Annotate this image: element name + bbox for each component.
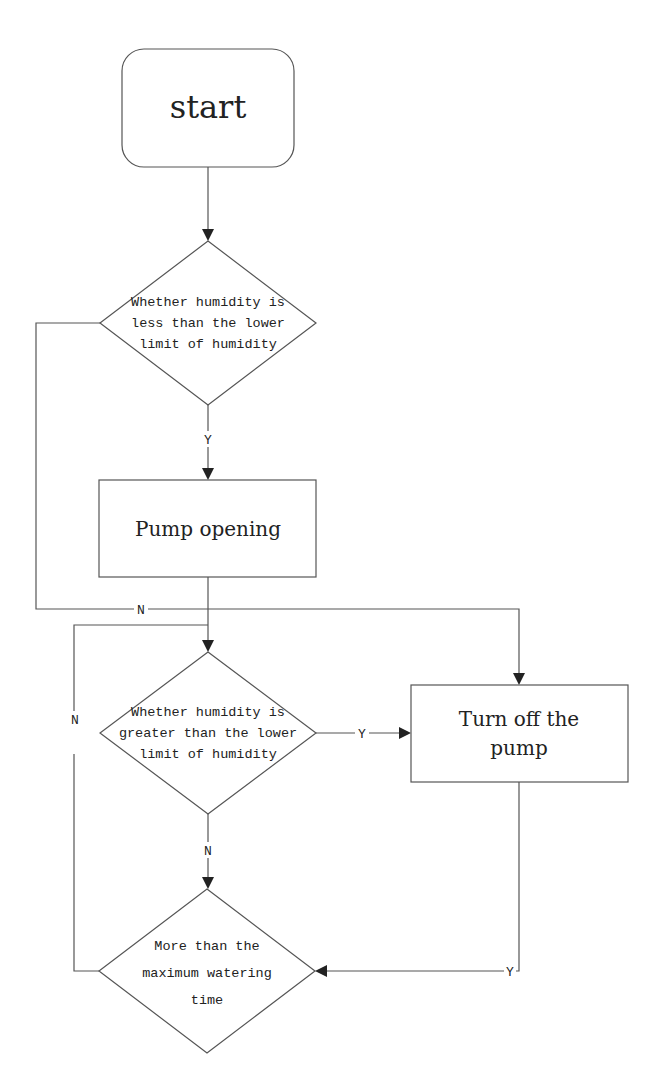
decision1-node: Whether humidity is less than the lower … xyxy=(100,241,316,405)
decision3-node: More than the maximum watering time xyxy=(99,889,315,1053)
decision3-line2: maximum watering xyxy=(142,966,272,981)
decision1-yes-label: Y xyxy=(204,433,212,448)
decision1-line2: less than the lower xyxy=(131,316,285,331)
decision2-no-label: N xyxy=(204,844,212,859)
decision1-line1: Whether humidity is xyxy=(131,295,285,310)
decision3-no-label: N xyxy=(71,713,79,728)
flowchart-canvas: start Whether humidity is less than the … xyxy=(0,0,659,1084)
pump-opening-node: Pump opening xyxy=(99,480,316,577)
decision3-line1: More than the xyxy=(154,939,259,954)
turn-off-pump-line1: Turn off the xyxy=(459,707,579,731)
decision2-line1: Whether humidity is xyxy=(131,705,285,720)
start-node: start xyxy=(122,49,294,167)
start-label: start xyxy=(170,88,247,126)
arrow-right-icon xyxy=(399,727,411,739)
edge-start-to-decision1 xyxy=(202,167,214,241)
turn-off-pump-node: Turn off the pump xyxy=(411,685,628,782)
arrow-down-icon xyxy=(202,229,214,241)
decision1-no-label: N xyxy=(137,603,145,618)
decision1-line3: limit of humidity xyxy=(139,337,277,352)
turn-off-pump-line2: pump xyxy=(490,736,547,760)
arrow-down-icon xyxy=(202,640,214,652)
edge-pump-off-to-decision3: Y xyxy=(315,782,519,980)
pump-off-yes-label: Y xyxy=(506,965,514,980)
edge-decision1-yes: Y xyxy=(200,405,216,480)
decision3-line3: time xyxy=(191,993,223,1008)
arrow-down-icon xyxy=(202,468,214,480)
arrow-left-icon xyxy=(315,965,327,977)
arrow-down-icon xyxy=(202,877,214,889)
decision2-node: Whether humidity is greater than the low… xyxy=(100,652,316,814)
arrow-down-icon xyxy=(513,673,525,685)
edge-pump-open-to-decision2 xyxy=(202,577,214,652)
pump-opening-label: Pump opening xyxy=(135,517,281,541)
decision2-yes-label: Y xyxy=(358,727,366,742)
edge-decision2-yes: Y xyxy=(316,726,411,742)
decision2-line2: greater than the lower xyxy=(119,726,297,741)
edge-decision2-no: N xyxy=(200,814,216,889)
decision2-line3: limit of humidity xyxy=(139,747,277,762)
